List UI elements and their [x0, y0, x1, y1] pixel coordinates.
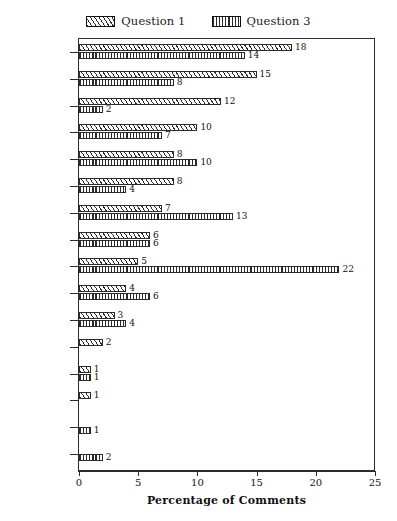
bar-question-3: [79, 79, 174, 86]
x-axis-title: Percentage of Comments: [78, 494, 375, 507]
category-tick-mark: [70, 186, 79, 187]
x-axis-tick: [79, 471, 80, 476]
bar-value-label: 22: [342, 265, 353, 274]
bar-rows-container: Tenses1814Oral158Nothing/ blank122Listen…: [0, 0, 397, 521]
bar-question-3: [79, 52, 245, 59]
category-tick-mark: [70, 347, 79, 348]
x-axis-tick-label: 10: [191, 478, 204, 488]
x-axis-tick-label: 20: [309, 478, 322, 488]
bar-value-label: 7: [165, 131, 171, 140]
bar-value-label: 15: [260, 70, 271, 79]
bar-value-label: 6: [153, 292, 159, 301]
bar-value-label: 10: [200, 123, 211, 132]
category-tick-mark: [70, 159, 79, 160]
bar-question-3: [79, 213, 233, 220]
bar-value-label: 12: [224, 97, 235, 106]
bar-value-label: 2: [106, 453, 112, 462]
bar-question-3: [79, 293, 150, 300]
bar-value-label: 14: [248, 51, 259, 60]
bar-value-label: 2: [106, 105, 112, 114]
bar-question-3: [79, 132, 162, 139]
category-tick-mark: [70, 293, 79, 294]
bar-question-3: [79, 320, 126, 327]
bar-value-label: 8: [177, 150, 183, 159]
x-axis-tick-label: 15: [250, 478, 263, 488]
category-tick-mark: [70, 213, 79, 214]
category-tick-mark: [70, 374, 79, 375]
category-tick-mark: [70, 132, 79, 133]
bar-value-label: 18: [295, 43, 306, 52]
bar-value-label: 4: [129, 185, 135, 194]
bar-question-1: [79, 392, 91, 399]
category-tick-mark: [70, 106, 79, 107]
bar-chart: Question 1 Question 3 Tenses1814Oral158N…: [0, 0, 397, 521]
bar-value-label: 8: [177, 177, 183, 186]
bar-value-label: 1: [94, 426, 100, 435]
bar-question-1: [79, 285, 126, 292]
bar-value-label: 1: [94, 391, 100, 400]
bar-value-label: 6: [153, 239, 159, 248]
bar-question-1: [79, 232, 150, 239]
bar-question-3: [79, 427, 91, 434]
bar-value-label: 13: [236, 212, 247, 221]
bar-question-1: [79, 98, 221, 105]
bar-question-1: [79, 71, 257, 78]
bar-value-label: 2: [106, 338, 112, 347]
x-axis-tick: [197, 471, 198, 476]
category-tick-mark: [70, 79, 79, 80]
bar-question-3: [79, 159, 197, 166]
x-axis-line: [78, 471, 375, 472]
category-tick-mark: [70, 454, 79, 455]
bar-question-1: [79, 205, 162, 212]
bar-question-1: [79, 312, 115, 319]
bar-question-3: [79, 454, 103, 461]
category-tick-mark: [70, 266, 79, 267]
x-axis-tick: [375, 471, 376, 476]
x-axis-tick: [316, 471, 317, 476]
bar-value-label: 4: [129, 319, 135, 328]
bar-question-1: [79, 366, 91, 373]
bar-value-label: 10: [200, 158, 211, 167]
category-tick-mark: [70, 427, 79, 428]
bar-value-label: 4: [129, 284, 135, 293]
bar-question-1: [79, 124, 197, 131]
bar-value-label: 8: [177, 78, 183, 87]
bar-question-1: [79, 151, 174, 158]
category-tick-mark: [70, 52, 79, 53]
bar-value-label: 1: [94, 373, 100, 382]
bar-question-1: [79, 44, 292, 51]
category-tick-mark: [70, 400, 79, 401]
bar-question-1: [79, 339, 103, 346]
bar-question-1: [79, 178, 174, 185]
bar-question-3: [79, 186, 126, 193]
x-axis-tick: [138, 471, 139, 476]
bar-question-3: [79, 266, 339, 273]
bar-question-3: [79, 374, 91, 381]
bar-value-label: 7: [165, 204, 171, 213]
x-axis-tick: [257, 471, 258, 476]
x-axis-tick-label: 25: [369, 478, 382, 488]
x-axis-tick-label: 5: [135, 478, 141, 488]
category-tick-mark: [70, 240, 79, 241]
category-tick-mark: [70, 320, 79, 321]
x-axis-tick-label: 0: [76, 478, 82, 488]
bar-question-1: [79, 258, 138, 265]
bar-question-3: [79, 240, 150, 247]
bar-value-label: 5: [141, 257, 147, 266]
bar-value-label: 3: [118, 311, 124, 320]
bar-question-3: [79, 106, 103, 113]
